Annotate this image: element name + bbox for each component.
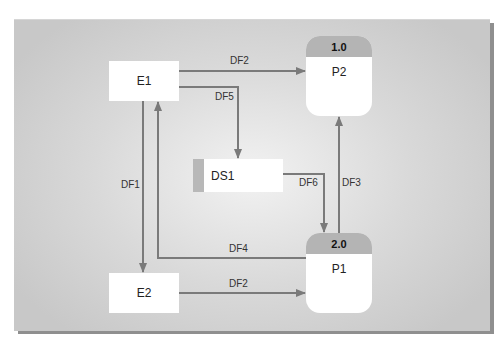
flow-label-df5: DF5 [215,91,234,102]
process-label: P2 [306,57,372,116]
flow-label-df3: DF3 [342,177,361,188]
data-store-strip [193,159,204,192]
data-store-ds1[interactable]: DS1 [193,159,283,192]
entity-e2[interactable]: E2 [109,273,179,313]
process-number: 2.0 [306,233,372,254]
entity-label: E1 [137,74,152,88]
flow-label-df2-bottom: DF2 [229,278,248,289]
flow-label-df2-top: DF2 [230,55,249,66]
process-label: P1 [306,254,372,313]
flow-label-df6: DF6 [299,177,318,188]
flow-label-df1: DF1 [121,179,140,190]
entity-label: E2 [137,286,152,300]
process-number: 1.0 [306,36,372,57]
entity-e1[interactable]: E1 [109,61,179,101]
process-p2[interactable]: 1.0 P2 [306,36,372,116]
data-store-label: DS1 [204,169,234,183]
process-p1[interactable]: 2.0 P1 [306,233,372,313]
flow-label-df4: DF4 [229,243,248,254]
